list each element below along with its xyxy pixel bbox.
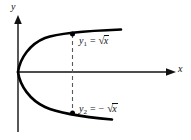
upper-curve-equation-label: y1 = √ x [79, 35, 109, 46]
graph-canvas [0, 0, 191, 140]
lower-label-minus-sign: − [99, 104, 105, 114]
y-axis-label: y [11, 2, 15, 12]
parabola-figure: y x y1 = √ x y2 = − √ x [0, 0, 191, 140]
x-axis [18, 68, 176, 76]
upper-point-marker [70, 32, 75, 37]
upper-label-radical: √ x [99, 35, 110, 46]
x-axis-arrowhead [166, 68, 176, 76]
lower-label-radicand: x [112, 103, 117, 114]
lower-label-subscript: 2 [83, 108, 87, 116]
lower-label-equals: = [90, 104, 96, 114]
lower-label-radical: √ x [107, 103, 118, 114]
lower-label-variable: y2 [79, 104, 87, 114]
x-axis-label: x [178, 64, 182, 74]
lower-point-marker [70, 111, 75, 116]
lower-curve-equation-label: y2 = − √ x [79, 103, 118, 114]
upper-label-equals: = [90, 36, 96, 46]
upper-label-subscript: 1 [83, 40, 87, 48]
upper-label-radicand: x [104, 35, 109, 46]
y-axis-arrowhead [14, 15, 22, 24]
upper-label-variable: y1 [79, 36, 87, 46]
